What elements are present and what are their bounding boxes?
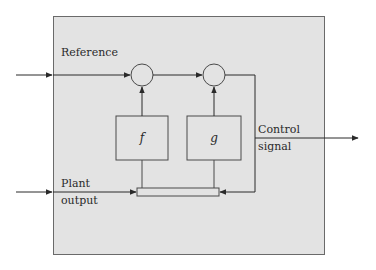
summing-junction-2: [203, 64, 225, 86]
plant-output-label-line1: Plant: [61, 177, 91, 190]
control-signal-label-line2: signal: [258, 140, 292, 153]
reference-label: Reference: [61, 46, 118, 59]
plant-output-label-line2: output: [61, 194, 98, 207]
signal-bar: [137, 188, 219, 196]
control-signal-label-line1: Control: [258, 123, 300, 136]
block-diagram: Reference Control signal f g Plant outpu…: [0, 0, 376, 270]
summing-junction-1: [131, 64, 153, 86]
block-g-label: g: [210, 131, 218, 145]
